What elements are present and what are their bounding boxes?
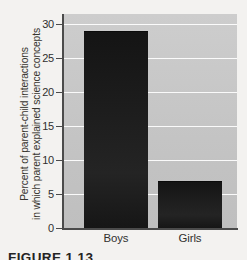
y-tick-mark-25 xyxy=(56,58,62,59)
y-tick-label-5: 5 xyxy=(48,189,54,200)
y-tick-mark-0 xyxy=(56,228,62,229)
y-axis-line xyxy=(62,14,64,229)
y-tick-mark-30 xyxy=(56,24,62,25)
y-tick-mark-20 xyxy=(56,92,62,93)
x-tick-label-boys: Boys xyxy=(84,232,148,245)
figure-caption: FIGURE 1.13 xyxy=(8,250,93,260)
bar-chart-figure: Percent of parent-child interactions in … xyxy=(0,0,247,260)
x-axis-line xyxy=(62,228,238,230)
bar-boys xyxy=(84,31,148,228)
y-tick-label-20: 20 xyxy=(42,87,54,98)
y-tick-mark-15 xyxy=(56,126,62,127)
plot-area xyxy=(63,14,237,228)
bar-girls xyxy=(158,181,222,229)
y-tick-label-15: 15 xyxy=(42,121,54,132)
y-tick-mark-5 xyxy=(56,194,62,195)
y-tick-label-25: 25 xyxy=(42,53,54,64)
y-tick-label-0: 0 xyxy=(48,223,54,234)
x-tick-label-girls: Girls xyxy=(158,232,222,245)
y-tick-label-10: 10 xyxy=(42,155,54,166)
y-tick-label-30: 30 xyxy=(42,19,54,30)
y-axis-title-line-1: Percent of parent-child interactions xyxy=(19,47,31,201)
y-tick-mark-10 xyxy=(56,160,62,161)
gridline-30 xyxy=(63,24,237,25)
